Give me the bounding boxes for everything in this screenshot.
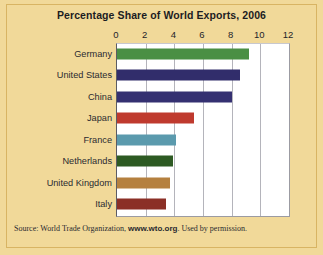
- bar-japan: [117, 113, 194, 124]
- source-url-link[interactable]: www.wto.org: [128, 224, 177, 233]
- category-label-italy: Italy: [0, 199, 112, 209]
- bar-united-kingdom: [117, 177, 170, 188]
- category-label-china: China: [0, 92, 112, 102]
- x-tick-label-8: 8: [228, 29, 233, 40]
- bars-layer: [117, 43, 288, 215]
- category-label-france: France: [0, 135, 112, 145]
- source-prefix: Source: World Trade Organization,: [14, 224, 128, 233]
- bar-france: [117, 134, 176, 145]
- x-tick-label-10: 10: [254, 29, 265, 40]
- source-suffix: . Used by permission.: [177, 224, 247, 233]
- x-tick-label-6: 6: [199, 29, 204, 40]
- category-label-japan: Japan: [0, 113, 112, 123]
- bar-united-states: [117, 70, 240, 81]
- x-tick-label-4: 4: [171, 29, 176, 40]
- bar-china: [117, 91, 232, 102]
- category-axis-labels: GermanyUnited StatesChinaJapanFranceNeth…: [0, 43, 112, 215]
- chart-figure: Percentage Share of World Exports, 2006 …: [0, 0, 323, 255]
- source-note: Source: World Trade Organization, www.wt…: [14, 224, 314, 233]
- bar-italy: [117, 199, 166, 210]
- category-label-netherlands: Netherlands: [0, 156, 112, 166]
- x-axis-tick-labels: 024681012: [0, 29, 323, 43]
- bar-germany: [117, 48, 249, 59]
- bar-netherlands: [117, 156, 173, 167]
- x-tick-label-0: 0: [113, 29, 118, 40]
- chart-title: Percentage Share of World Exports, 2006: [0, 9, 323, 21]
- category-label-united-states: United States: [0, 70, 112, 80]
- category-label-germany: Germany: [0, 49, 112, 59]
- category-label-united-kingdom: United Kingdom: [0, 178, 112, 188]
- x-tick-label-2: 2: [142, 29, 147, 40]
- x-tick-label-12: 12: [283, 29, 294, 40]
